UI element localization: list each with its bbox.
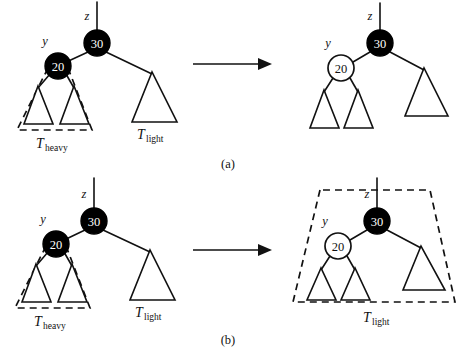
label-t-light: T light: [137, 127, 164, 144]
node-root-30-key: 30: [374, 37, 387, 51]
edge-child-to-left-triangle: [36, 252, 48, 266]
pointer-label-y: y: [38, 212, 46, 226]
label-t-heavy-main: T: [36, 136, 45, 151]
label-t-heavy-main: T: [34, 314, 43, 329]
label-t-light-sub: light: [144, 312, 162, 322]
label-t-heavy: T heavy: [36, 136, 68, 153]
subtree-triangle-right: [341, 268, 370, 300]
edge-child-to-left-triangle: [38, 74, 50, 88]
node-child-20-key: 20: [52, 60, 65, 74]
edge-root-to-right-subtree: [387, 230, 421, 248]
panel-b-right-tree: 30 20 z y T light: [293, 178, 455, 327]
pointer-label-z: z: [364, 187, 370, 201]
panel-caption-a: (a): [221, 157, 235, 171]
subtree-triangle-right: [60, 86, 89, 124]
subtree-triangle-light: [403, 246, 445, 290]
panel-a-right-tree: 30 20 z y: [310, 3, 448, 128]
label-t-light-main: T: [135, 305, 144, 320]
edge-root-to-right-subtree: [390, 52, 424, 70]
label-t-light-sub: light: [146, 134, 164, 144]
panel-b-left-tree: 30 20 z y T heavy T light: [15, 178, 175, 331]
arrow-head-icon: [258, 244, 272, 256]
pointer-label-z: z: [84, 9, 90, 23]
pointer-label-y: y: [320, 214, 328, 228]
edge-child-to-right-triangle: [350, 78, 358, 92]
subtree-triangle-left: [310, 90, 339, 128]
node-root-30-key: 30: [91, 37, 104, 51]
subtree-triangle-light: [405, 68, 448, 116]
node-child-20-key: 20: [332, 240, 345, 254]
arrow-head-icon: [258, 58, 272, 70]
panel-a-left-tree: 30 20 z y T heavy T light: [17, 2, 177, 153]
node-root-30-key: 30: [371, 215, 384, 229]
panel-caption-b: (b): [221, 333, 236, 347]
panel-b-transform-arrow: [193, 244, 272, 256]
tree-rotation-figure: 30 20 z y T heavy T light: [0, 0, 462, 352]
pointer-label-y: y: [40, 34, 48, 48]
panel-a-transform-arrow: [193, 58, 272, 70]
subtree-triangle-right: [344, 90, 373, 128]
subtree-triangle-left: [307, 268, 336, 300]
label-t-heavy: T heavy: [34, 314, 66, 331]
label-t-light: T light: [363, 310, 390, 327]
label-t-heavy-sub: heavy: [43, 321, 66, 331]
node-root-30-key: 30: [88, 215, 101, 229]
pointer-label-z: z: [367, 9, 373, 23]
label-t-light-sub: light: [372, 317, 390, 327]
label-t-light-main: T: [363, 310, 372, 325]
subtree-triangle-left: [22, 264, 51, 302]
subtree-triangle-right: [58, 264, 87, 302]
figure-container: 30 20 z y T heavy T light: [0, 0, 462, 352]
pointer-label-z: z: [81, 187, 87, 201]
subtree-triangle-light: [130, 250, 175, 300]
edge-child-to-left-triangle: [324, 78, 333, 92]
node-child-20-key: 20: [335, 62, 348, 76]
edge-child-to-right-triangle: [347, 256, 355, 270]
subtree-triangle-light: [132, 72, 177, 122]
edge-child-to-left-triangle: [321, 256, 330, 270]
edge-root-to-right-subtree: [103, 230, 150, 252]
node-child-20-key: 20: [50, 238, 63, 252]
label-t-light: T light: [135, 305, 162, 322]
pointer-label-y: y: [323, 36, 331, 50]
edge-root-to-left-child: [353, 52, 370, 62]
subtree-triangle-left: [24, 86, 53, 124]
edge-root-to-left-child: [350, 230, 367, 240]
edge-root-to-right-subtree: [106, 52, 152, 74]
label-t-heavy-sub: heavy: [45, 143, 68, 153]
label-t-light-main: T: [137, 127, 146, 142]
